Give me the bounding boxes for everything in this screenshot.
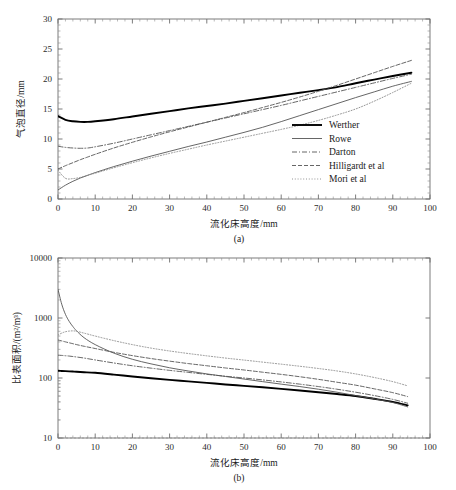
x-tick-label: 50: [240, 203, 250, 213]
x-tick-label: 70: [314, 442, 324, 452]
x-tick-label: 10: [91, 203, 101, 213]
x-tick-label: 100: [423, 203, 437, 213]
y-axis-label-b: 比表面积/(m²/m³): [11, 312, 23, 384]
chart-svg-b: 010203040506070809010010100100010000流化床高…: [0, 245, 456, 490]
panel-caption-a: (a): [234, 234, 245, 245]
x-tick-label: 10: [91, 442, 101, 452]
series-line-hilligardt-et-al: [58, 60, 411, 169]
x-axis-label-a: 流化床高度/mm: [210, 218, 278, 229]
x-axis-a: 0102030405060708090100: [56, 19, 438, 213]
series-line-darton: [58, 74, 411, 148]
legend-label-werther: Werther: [329, 120, 360, 130]
x-tick-label: 100: [423, 442, 437, 452]
x-tick-label: 0: [56, 203, 61, 213]
x-tick-label: 40: [202, 203, 212, 213]
x-tick-label: 80: [351, 442, 361, 452]
y-axis-b: 10100100010000: [30, 253, 431, 443]
x-tick-label: 70: [314, 203, 324, 213]
series-line-rowe: [58, 289, 408, 407]
legend-a: WertherRoweDartonHilligardt et alMori et…: [292, 120, 385, 184]
y-tick-label: 25: [43, 44, 53, 54]
series-line-werther: [58, 371, 408, 406]
y-tick-label: 10: [43, 134, 53, 144]
chart-svg-a: 0102030405060708090100051015202530流化床高度/…: [0, 0, 456, 245]
x-tick-label: 30: [165, 442, 175, 452]
y-tick-label: 10000: [30, 253, 53, 263]
x-tick-label: 90: [388, 203, 398, 213]
y-tick-label: 5: [48, 164, 53, 174]
legend-label-rowe: Rowe: [329, 134, 351, 144]
chart-panel-b: 010203040506070809010010100100010000流化床高…: [0, 245, 456, 490]
series-group-b: [58, 289, 408, 407]
x-tick-label: 60: [277, 203, 287, 213]
y-tick-label: 100: [39, 373, 53, 383]
legend-label-darton: Darton: [329, 147, 356, 157]
figure-container: 0102030405060708090100051015202530流化床高度/…: [0, 0, 456, 490]
axes-frame: [58, 258, 430, 438]
y-tick-label: 10: [43, 433, 53, 443]
y-tick-label: 0: [48, 194, 53, 204]
y-tick-label: 15: [43, 104, 53, 114]
y-axis-a: 051015202530: [43, 14, 430, 204]
x-axis-label-b: 流化床高度/mm: [210, 457, 278, 468]
legend-label-hilligardt-et-al: Hilligardt et al: [329, 161, 385, 171]
legend-label-mori-et-al: Mori et al: [329, 174, 367, 184]
y-tick-label: 30: [43, 14, 53, 24]
x-tick-label: 20: [128, 203, 138, 213]
x-tick-label: 50: [240, 442, 250, 452]
y-axis-label-a: 气泡直径/mm: [15, 80, 26, 138]
series-line-werther: [58, 73, 411, 122]
x-tick-label: 0: [56, 442, 61, 452]
plot-area-b: [58, 258, 430, 438]
x-tick-label: 30: [165, 203, 175, 213]
x-tick-label: 80: [351, 203, 361, 213]
x-tick-label: 20: [128, 442, 138, 452]
chart-panel-a: 0102030405060708090100051015202530流化床高度/…: [0, 0, 456, 245]
x-tick-label: 40: [202, 442, 212, 452]
plot-area-a: [58, 19, 430, 199]
x-tick-label: 60: [277, 442, 287, 452]
panel-caption-b: (b): [233, 473, 244, 484]
y-tick-label: 1000: [34, 313, 53, 323]
axes-frame: [58, 19, 430, 199]
y-tick-label: 20: [43, 74, 53, 84]
x-tick-label: 90: [388, 442, 398, 452]
series-line-hilligardt-et-al: [58, 340, 408, 397]
x-axis-b: 0102030405060708090100: [56, 258, 438, 452]
